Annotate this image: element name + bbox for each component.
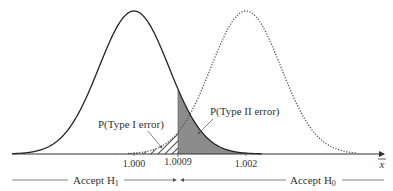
hypothesis-test-diagram: 1.000 1.0009 1.002 x P(Type I error) P(T…: [0, 0, 393, 191]
tick-label-1000: 1.000: [123, 158, 146, 169]
axis-variable-label: x: [379, 158, 385, 170]
type-i-error-region: [113, 132, 178, 154]
type-ii-error-label: P(Type II error): [210, 105, 280, 118]
h1-distribution-curve: [128, 11, 356, 154]
accept-h0-label: Accept H0: [290, 174, 336, 188]
type-i-pointer: [148, 131, 162, 148]
h0-distribution-curve: [12, 11, 262, 154]
type-ii-pointer: [198, 119, 213, 134]
type-i-error-label: P(Type I error): [98, 118, 164, 131]
type-ii-error-region: [178, 89, 281, 154]
tick-label-10009: 1.0009: [164, 156, 192, 167]
tick-label-1002: 1.002: [235, 158, 258, 169]
accept-h1-label: Accept H1: [73, 174, 119, 188]
